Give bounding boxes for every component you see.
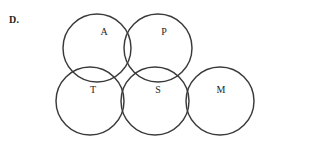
circle-label-a: A (100, 26, 108, 37)
figure-container: D. A P T S M (0, 0, 312, 146)
circle-m (186, 67, 254, 135)
venn-circle-group (56, 14, 254, 135)
circle-label-p: P (161, 26, 167, 37)
venn-diagram: A P T S M (0, 0, 312, 146)
circle-label-t: T (90, 84, 96, 95)
circle-label-m: M (217, 84, 226, 95)
circle-s (121, 67, 189, 135)
circle-t (56, 67, 124, 135)
circle-label-s: S (155, 84, 161, 95)
